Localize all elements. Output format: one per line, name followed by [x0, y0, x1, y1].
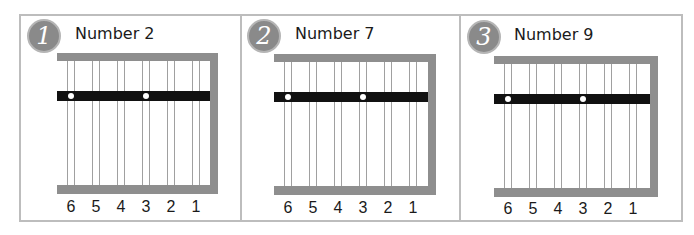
- fret-band: [57, 91, 210, 101]
- string-label: 3: [356, 199, 370, 217]
- step-badge-icon: 2: [247, 19, 281, 53]
- string-label: 3: [139, 198, 153, 216]
- step-badge-icon: 1: [27, 19, 61, 53]
- step-badge-icon: 3: [467, 20, 501, 54]
- panel-title: Number 7: [295, 24, 375, 43]
- string-label: 3: [576, 200, 590, 218]
- string-5: [529, 64, 537, 188]
- fretboard-bottom-bar: [494, 188, 658, 197]
- string-4: [334, 62, 342, 186]
- string-label: 1: [189, 198, 203, 216]
- string-5: [92, 61, 100, 185]
- string-2: [167, 61, 175, 185]
- string-label: 5: [526, 200, 540, 218]
- string-label: 4: [114, 198, 128, 216]
- fretboard-top-bar: [57, 53, 218, 61]
- string-4: [117, 61, 125, 185]
- finger-dot: [68, 93, 74, 99]
- fret-band: [274, 92, 428, 102]
- panel-3: 3 Number 9 6 5 4 3 2 1: [459, 14, 683, 222]
- string-3: [359, 62, 367, 186]
- string-label: 1: [626, 200, 640, 218]
- string-1: [409, 62, 417, 186]
- string-label: 6: [501, 200, 515, 218]
- string-4: [554, 64, 562, 188]
- fretboard-top-bar: [494, 56, 658, 64]
- finger-dot: [505, 96, 511, 102]
- string-label: 2: [381, 199, 395, 217]
- string-3: [579, 64, 587, 188]
- finger-dot: [360, 94, 366, 100]
- panel-2: 2 Number 7 6 5 4 3 2 1: [240, 14, 459, 222]
- string-6: [67, 61, 75, 185]
- string-label: 1: [406, 199, 420, 217]
- string-2: [384, 62, 392, 186]
- panel-1: 1 Number 2 6 5 4 3 2 1: [19, 14, 240, 222]
- string-1: [629, 64, 637, 188]
- string-label: 2: [164, 198, 178, 216]
- finger-dot: [580, 96, 586, 102]
- string-label: 5: [89, 198, 103, 216]
- string-1: [192, 61, 200, 185]
- panel-title: Number 2: [75, 24, 155, 43]
- fretboard-bottom-bar: [274, 186, 436, 195]
- finger-dot: [143, 93, 149, 99]
- fret-band: [494, 94, 650, 104]
- fretboard-side-bar: [210, 53, 218, 194]
- fretboard-side-bar: [650, 56, 658, 197]
- string-3: [142, 61, 150, 185]
- string-label: 2: [601, 200, 615, 218]
- string-6: [504, 64, 512, 188]
- fretboard-top-bar: [274, 54, 436, 62]
- fretboard-side-bar: [428, 54, 436, 195]
- string-label: 4: [551, 200, 565, 218]
- string-label: 6: [281, 199, 295, 217]
- string-label: 6: [64, 198, 78, 216]
- panel-title: Number 9: [514, 25, 594, 44]
- string-label: 5: [306, 199, 320, 217]
- string-label: 4: [331, 199, 345, 217]
- fretboard-bottom-bar: [57, 185, 218, 194]
- string-2: [604, 64, 612, 188]
- string-6: [284, 62, 292, 186]
- finger-dot: [285, 94, 291, 100]
- string-5: [309, 62, 317, 186]
